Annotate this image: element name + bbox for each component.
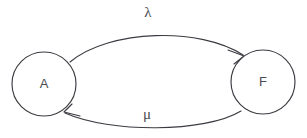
transition-a-to-f-arc <box>70 36 243 62</box>
state-node-f[interactable]: F <box>231 50 295 114</box>
transition-f-to-a[interactable] <box>64 104 241 128</box>
transition-rate-label-mu: μ <box>143 106 151 122</box>
state-label-f: F <box>259 74 267 89</box>
transition-f-to-a-arc <box>65 111 241 128</box>
transition-a-to-f[interactable] <box>70 36 244 64</box>
diagram-svg-canvas: A F λ μ <box>0 0 307 138</box>
state-node-a[interactable]: A <box>12 52 76 116</box>
transition-rate-label-lambda: λ <box>144 4 152 20</box>
state-label-a: A <box>40 76 49 91</box>
state-transition-diagram: A F λ μ <box>0 0 307 138</box>
